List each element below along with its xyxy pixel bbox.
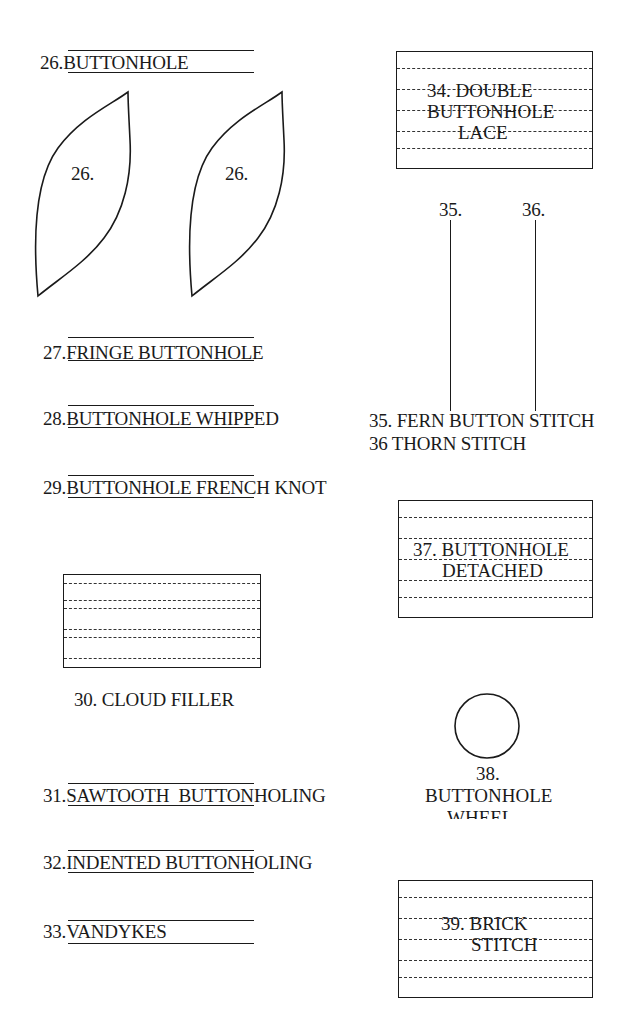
item-28-top-rule (68, 405, 254, 406)
item-35-marker: 35. (439, 200, 462, 220)
item-33-number: 33. (43, 921, 66, 942)
item-37-line1: 37. BUTTONHOLE (413, 539, 569, 560)
dashed-line (397, 148, 592, 149)
dashed-line (64, 608, 260, 609)
dashed-line (64, 600, 260, 601)
item-33-label: 33.VANDYKES (43, 922, 167, 942)
item-28-number: 28. (43, 408, 66, 429)
leaf-shape-right (189, 92, 284, 296)
item-32-bottom-rule (68, 872, 254, 873)
item-29-top-rule (68, 475, 254, 476)
item-33-bottom-rule (68, 943, 254, 944)
fern-stitch-line (450, 220, 451, 411)
item-32-top-rule (68, 850, 254, 851)
dashed-line (399, 597, 592, 598)
dashed-line (64, 629, 260, 630)
item-37-line2: DETACHED (442, 560, 543, 581)
item-26-bottom-rule (68, 72, 254, 73)
leaf-right-label: 26. (225, 164, 248, 184)
item-32-name: INDENTED BUTTONHOLING (66, 852, 312, 873)
item-31-bottom-rule (68, 805, 254, 806)
item-27-top-rule (68, 337, 254, 338)
item-29-number: 29. (43, 477, 66, 498)
item-28-name: BUTTONHOLE WHIPPED (66, 408, 279, 429)
item-34-line2: BUTTONHOLE (427, 101, 554, 122)
buttonhole-wheel-circle (455, 694, 519, 758)
dashed-line (399, 517, 592, 518)
cloud-filler-box (63, 574, 261, 668)
item-29-label: 29.BUTTONHOLE FRENCH KNOT (43, 478, 326, 498)
leaf-shape-left (35, 92, 130, 296)
item-32-number: 32. (43, 852, 66, 873)
item-27-bottom-rule (68, 360, 254, 361)
item-38-line3: WHEEL (447, 807, 513, 819)
dashed-line (64, 658, 260, 659)
item-26-name: BUTTONHOLE (63, 52, 188, 73)
dashed-line (64, 637, 260, 638)
leaf-left-label: 26. (71, 164, 94, 184)
item-36-marker: 36. (522, 200, 545, 220)
item-38-line1: 38. (476, 763, 500, 784)
dashed-line (399, 977, 592, 978)
item-39-line2: STITCH (471, 934, 538, 955)
item-31-label: 31.SAWTOOTH BUTTONHOLING (43, 786, 326, 806)
item-34-line3: LACE (458, 122, 508, 143)
dashed-line (399, 960, 592, 961)
item-31-name: SAWTOOTH BUTTONHOLING (66, 785, 325, 806)
item-28-label: 28.BUTTONHOLE WHIPPED (43, 409, 279, 429)
buttonhole-detached-box: 37. BUTTONHOLE DETACHED (398, 500, 593, 618)
item-27-number: 27. (43, 342, 66, 363)
item-28-bottom-rule (68, 427, 254, 428)
dashed-line (399, 897, 592, 898)
thorn-stitch-line (535, 220, 536, 411)
dashed-line (64, 583, 260, 584)
dashed-line (397, 68, 592, 69)
item-39-line1: 39. BRICK (441, 913, 528, 934)
item-33-name: VANDYKES (66, 921, 166, 942)
double-buttonhole-lace-box: 34. DOUBLE BUTTONHOLE LACE (396, 51, 593, 169)
item-29-bottom-rule (68, 497, 254, 498)
item-36-caption: 36 THORN STITCH (369, 434, 526, 454)
item-30-caption: 30. CLOUD FILLER (74, 690, 234, 710)
item-34-line1: 34. DOUBLE (427, 80, 533, 101)
item-31-number: 31. (43, 785, 66, 806)
item-26-label: 26.BUTTONHOLE (40, 53, 189, 73)
item-32-label: 32.INDENTED BUTTONHOLING (43, 853, 312, 873)
item-26-number: 26. (40, 52, 63, 73)
item-26-top-rule (68, 50, 254, 51)
item-29-name: BUTTONHOLE FRENCH KNOT (66, 477, 326, 498)
item-35-caption: 35. FERN BUTTON STITCH (369, 411, 594, 431)
item-38-line2: BUTTONHOLE (425, 785, 552, 806)
brick-stitch-box: 39. BRICK STITCH (398, 880, 593, 998)
item-31-top-rule (68, 783, 254, 784)
